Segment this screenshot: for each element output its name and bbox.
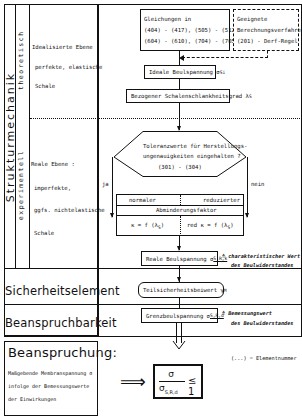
load-box: Beanspruchung: Maßgebende Membranspannun… [4,341,98,416]
limit-stress-box: Grenzbeulspannung σS,R,d [141,308,218,323]
yes-label: ja [102,181,109,187]
ideal-stress-box: Ideale Beulspannung σSi [144,65,216,79]
experimental-label: experimentell [17,145,27,225]
theoretical-label: theoretisch [17,32,27,90]
implies-arrow: ⟹ [120,371,146,392]
equations-box: Gleichungen in (404) - (417), (505) - (5… [140,9,230,51]
safety-element-label: Sicherheitselement [5,284,120,298]
slenderness-box: Bezogener Schalenschlankheitsgrad λS [126,89,230,103]
methods-box: Geeignete Berechnungsverfahren (201) - D… [233,9,299,51]
partial-safety-factor-box: Teilsicherheitsbeiwert γM [138,282,224,298]
design-criterion-box: σ σS,R,d ≤ 1 [153,364,203,399]
legend-note: (...) = Elementnummer [231,355,297,361]
reduction-factor-table: normaler reduzierter Abminderungsfaktor … [116,194,244,236]
real-stress-box: Reale Beulspannung σS,R,k [141,251,218,266]
no-label: nein [251,181,264,187]
resistance-label: Beanspruchbarkeit [5,316,117,330]
structural-mechanics-label: Strukturmechanik [4,67,18,207]
